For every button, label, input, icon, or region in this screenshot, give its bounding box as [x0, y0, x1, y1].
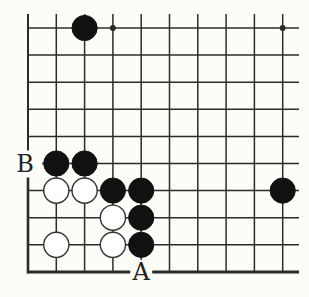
white-stone	[72, 178, 97, 203]
black-stone	[100, 178, 125, 203]
black-stone	[72, 151, 97, 176]
black-stone	[72, 15, 97, 40]
star-point	[280, 25, 286, 31]
go-board: BA	[0, 0, 309, 297]
white-stone	[44, 178, 69, 203]
black-stone	[129, 178, 154, 203]
black-stone	[129, 232, 154, 257]
label-b: B	[16, 150, 34, 178]
black-stone	[44, 151, 69, 176]
black-stone	[129, 205, 154, 230]
label-a: A	[132, 258, 151, 286]
star-point	[110, 25, 116, 31]
white-stone	[100, 205, 125, 230]
black-stone	[270, 178, 295, 203]
white-stone	[100, 232, 125, 257]
white-stone	[44, 232, 69, 257]
